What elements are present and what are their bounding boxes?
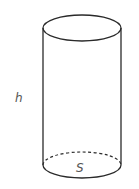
base-area-label: S bbox=[76, 161, 84, 175]
height-label: h bbox=[15, 91, 23, 105]
cylinder-diagram: h S bbox=[0, 0, 139, 189]
cylinder-top-ellipse bbox=[43, 15, 121, 41]
